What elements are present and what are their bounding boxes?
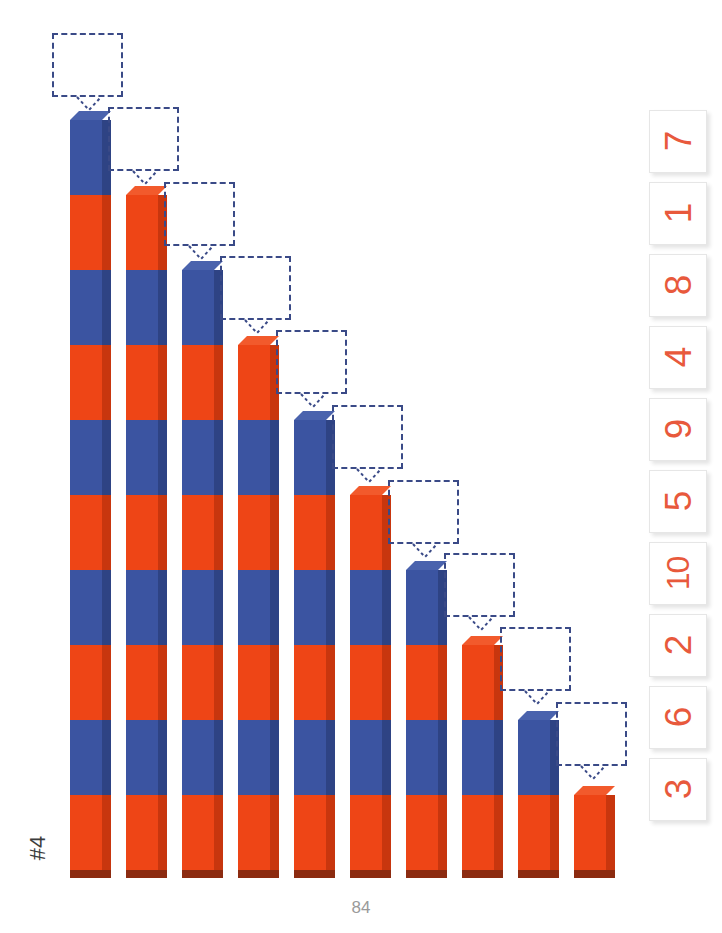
rod-unit-segment-side <box>102 645 111 720</box>
rod-unit-segment <box>350 795 382 870</box>
rod-unit-segment <box>126 345 158 420</box>
rod-unit-segment-side <box>214 720 223 795</box>
number-card[interactable]: 3 <box>649 758 707 821</box>
answer-box[interactable] <box>108 107 179 171</box>
rod-unit-segment <box>350 645 382 720</box>
rod-side-face <box>606 795 615 870</box>
rod <box>406 561 447 878</box>
rod-unit-segment <box>70 795 102 870</box>
rod-front-face <box>238 345 270 870</box>
rod-bottom-face <box>182 870 223 878</box>
rod-side-face <box>382 495 391 870</box>
number-card-value: 6 <box>648 690 709 746</box>
number-card[interactable]: 5 <box>649 470 707 533</box>
rod-unit-segment <box>70 195 102 270</box>
number-card-value: 4 <box>648 330 709 386</box>
rod-unit-segment <box>70 345 102 420</box>
rod-unit-segment-side <box>102 270 111 345</box>
rod <box>294 411 335 878</box>
callout-arrow-icon <box>298 392 328 412</box>
rod-unit-segment-side <box>214 345 223 420</box>
answer-box[interactable] <box>276 330 347 394</box>
rod-top-face <box>518 711 559 720</box>
number-card[interactable]: 6 <box>649 686 707 749</box>
rod-unit-segment <box>70 420 102 495</box>
rod-unit-segment <box>462 720 494 795</box>
number-card[interactable]: 10 <box>649 542 707 605</box>
rod-unit-segment <box>126 195 158 270</box>
number-card-value: 9 <box>648 402 709 458</box>
rod-unit-segment <box>406 720 438 795</box>
rod-unit-segment <box>182 720 214 795</box>
answer-box[interactable] <box>220 256 291 320</box>
callout-arrow-icon <box>410 542 440 562</box>
rod-unit-segment-side <box>102 420 111 495</box>
rod-unit-segment <box>462 645 494 720</box>
number-card[interactable]: 2 <box>649 614 707 677</box>
number-card-column: 71849510263 <box>649 0 722 890</box>
rod-unit-segment <box>126 420 158 495</box>
rod-unit-segment-side <box>270 420 279 495</box>
number-card-value: 1 <box>648 186 709 242</box>
rod-bottom-face <box>238 870 279 878</box>
rod-unit-segment <box>126 495 158 570</box>
number-card[interactable]: 8 <box>649 254 707 317</box>
number-card-value: 3 <box>648 762 709 818</box>
rod-front-face <box>350 495 382 870</box>
rod-unit-segment-side <box>102 720 111 795</box>
rod-unit-segment-side <box>158 645 167 720</box>
rod-unit-segment <box>238 795 270 870</box>
rod <box>126 186 167 878</box>
rod <box>462 636 503 878</box>
rod-unit-segment-side <box>326 720 335 795</box>
rod-unit-segment-side <box>214 645 223 720</box>
answer-box[interactable] <box>500 627 571 691</box>
rod-unit-segment <box>294 645 326 720</box>
rod-unit-segment-side <box>550 795 559 870</box>
rod-unit-segment <box>238 570 270 645</box>
rod-front-face <box>406 570 438 870</box>
rod-unit-segment-side <box>158 495 167 570</box>
number-card[interactable]: 9 <box>649 398 707 461</box>
rod-unit-segment <box>126 570 158 645</box>
rod-unit-segment <box>70 495 102 570</box>
rod-unit-segment-side <box>494 795 503 870</box>
rod-unit-segment <box>182 270 214 345</box>
answer-box[interactable] <box>388 480 459 544</box>
rod-front-face <box>518 720 550 870</box>
rod-unit-segment <box>238 420 270 495</box>
rod <box>182 261 223 878</box>
rod-unit-segment-side <box>438 720 447 795</box>
rod-unit-segment <box>462 795 494 870</box>
rod-front-face <box>182 270 214 870</box>
rod-unit-segment <box>350 495 382 570</box>
rod-unit-segment <box>70 645 102 720</box>
answer-box[interactable] <box>164 182 235 246</box>
rod-unit-segment <box>182 795 214 870</box>
answer-box[interactable] <box>332 405 403 469</box>
number-card-value: 8 <box>648 258 709 314</box>
rod-bottom-face <box>574 870 615 878</box>
answer-box[interactable] <box>556 702 627 766</box>
rod-bottom-face <box>126 870 167 878</box>
rod-unit-segment <box>238 720 270 795</box>
answer-box[interactable] <box>52 33 123 97</box>
rod-unit-segment <box>406 795 438 870</box>
number-card[interactable]: 7 <box>649 110 707 173</box>
rod-side-face <box>270 345 279 870</box>
rod-unit-segment <box>182 645 214 720</box>
number-card[interactable]: 4 <box>649 326 707 389</box>
rod-unit-segment-side <box>382 720 391 795</box>
rod-unit-segment-side <box>382 645 391 720</box>
rod-front-face <box>70 120 102 870</box>
answer-box[interactable] <box>444 553 515 617</box>
rod-unit-segment-side <box>102 195 111 270</box>
rod-unit-segment <box>350 720 382 795</box>
rod-unit-segment <box>70 570 102 645</box>
exercise-number-label: #4 <box>8 818 68 878</box>
number-card[interactable]: 1 <box>649 182 707 245</box>
rod-top-face <box>294 411 335 420</box>
callout-arrow-icon <box>186 244 216 264</box>
rod-unit-segment-side <box>158 570 167 645</box>
rod-bottom-face <box>518 870 559 878</box>
